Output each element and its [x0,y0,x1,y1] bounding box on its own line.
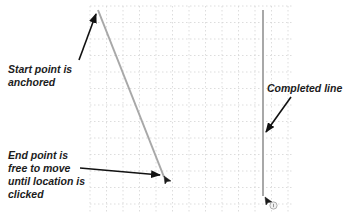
start-callout-arrow [79,14,96,60]
cursor-in-progress-icon [164,176,171,184]
end-callout-arrow [80,168,160,175]
start-point-label: Start point is anchored [8,63,72,89]
snap-indicator-icon [270,202,277,209]
dotted-grid [90,6,292,212]
end-point-label: End point is free to move until location… [8,149,85,201]
cursors [164,176,277,209]
completed-line-label: Completed line [267,82,342,95]
callout-arrows [79,14,291,175]
completed-callout-arrow [266,97,291,132]
cursor-completed-icon [265,197,277,209]
in-progress-line [98,10,164,177]
